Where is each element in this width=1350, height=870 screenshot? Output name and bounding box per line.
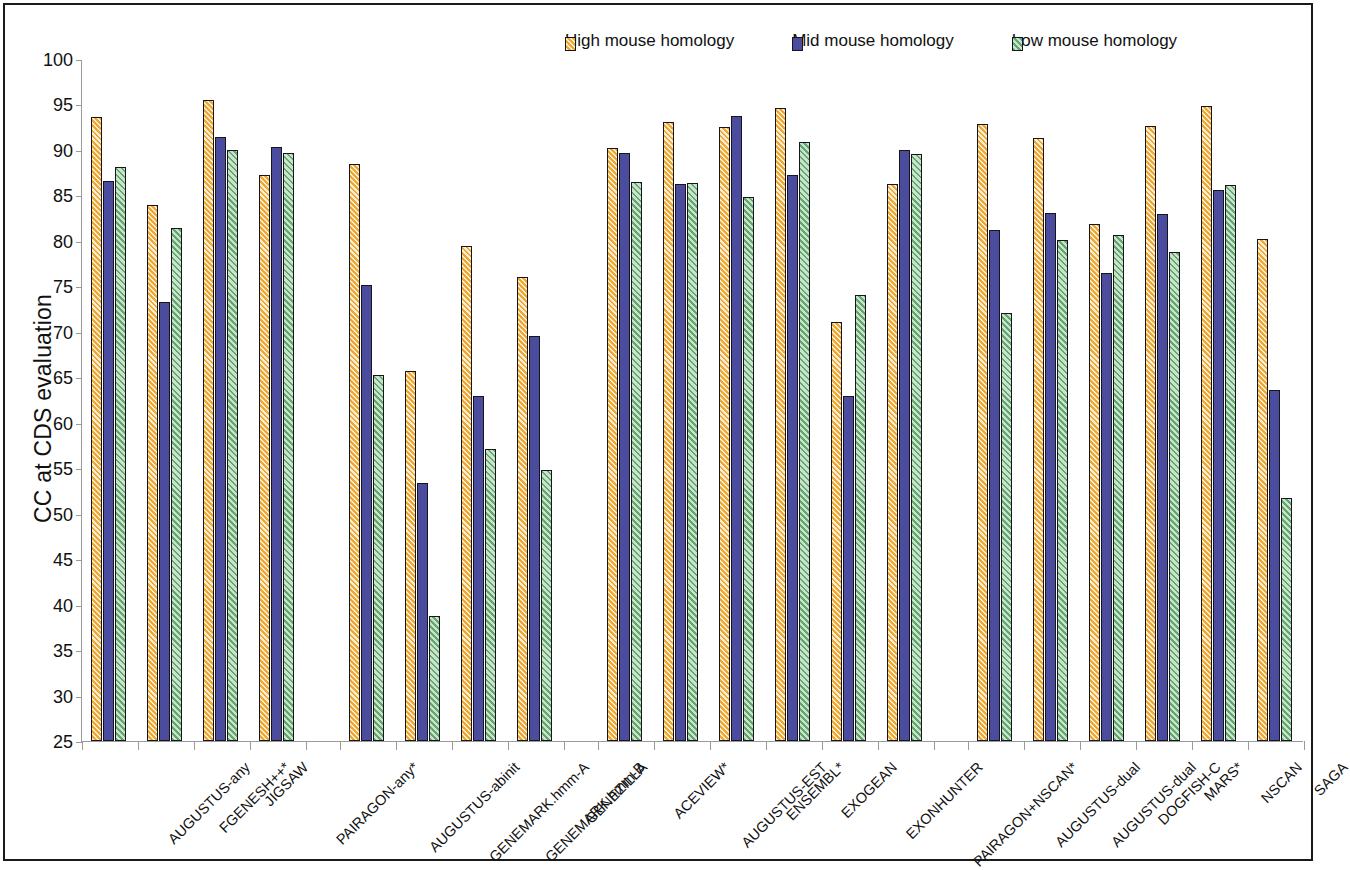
bar-low bbox=[429, 616, 440, 741]
bar-high bbox=[719, 127, 730, 741]
bar-low bbox=[227, 150, 238, 741]
bar-mid bbox=[899, 150, 910, 741]
bar-low bbox=[1225, 185, 1236, 741]
x-tick-mark bbox=[1136, 741, 1137, 750]
x-tick-mark bbox=[564, 741, 565, 750]
plot-area: 100959085807570656055504540353025 bbox=[81, 60, 1303, 742]
bar-high bbox=[1257, 239, 1268, 741]
bar-mid bbox=[215, 137, 226, 741]
bar-mid bbox=[271, 147, 282, 741]
bar-low bbox=[283, 153, 294, 741]
y-tick-label: 25 bbox=[53, 732, 73, 753]
bar-high bbox=[1089, 224, 1100, 741]
bar-high bbox=[831, 322, 842, 741]
legend-item-low: Low mouse homology bbox=[1012, 31, 1177, 51]
x-tick-mark bbox=[654, 741, 655, 750]
x-tick-mark bbox=[710, 741, 711, 750]
bar-low bbox=[1057, 240, 1068, 741]
bar-high bbox=[91, 117, 102, 741]
bar-high bbox=[977, 124, 988, 741]
x-tick-mark bbox=[250, 741, 251, 750]
x-tick-mark bbox=[1248, 741, 1249, 750]
bar-mid bbox=[103, 181, 114, 741]
legend-swatch-low-icon bbox=[1012, 37, 1023, 51]
bar-high bbox=[405, 371, 416, 741]
bar-mid bbox=[787, 175, 798, 741]
bar-high bbox=[1145, 126, 1156, 741]
y-tick-label: 55 bbox=[53, 459, 73, 480]
bar-high bbox=[203, 100, 214, 741]
x-tick-mark bbox=[340, 741, 341, 750]
x-tick-mark bbox=[396, 741, 397, 750]
bar-low bbox=[911, 154, 922, 741]
bar-low bbox=[743, 197, 754, 741]
x-axis-label: PAIRAGON+NSCAN* bbox=[970, 759, 1081, 870]
legend-label-low: Low mouse homology bbox=[1012, 31, 1177, 51]
bar-mid bbox=[361, 285, 372, 741]
bar-high bbox=[775, 108, 786, 741]
x-axis-label: EXOGEAN bbox=[838, 759, 900, 821]
x-axis-label: AUGUSTUS-EST bbox=[738, 759, 830, 851]
bar-mid bbox=[1045, 213, 1056, 741]
x-axis-label: SAGA bbox=[1310, 759, 1350, 799]
y-tick-label: 75 bbox=[53, 277, 73, 298]
y-tick-label: 45 bbox=[53, 550, 73, 571]
bar-series-layer bbox=[82, 60, 1303, 741]
x-axis-label: PAIRAGON-any* bbox=[333, 759, 422, 848]
bar-mid bbox=[731, 116, 742, 741]
x-tick-mark bbox=[766, 741, 767, 750]
y-tick-label: 40 bbox=[53, 595, 73, 616]
chart-frame: High mouse homology Mid mouse homology L… bbox=[3, 3, 1313, 861]
bar-low bbox=[1001, 313, 1012, 741]
bar-low bbox=[687, 183, 698, 741]
legend-item-high: High mouse homology bbox=[565, 31, 734, 51]
bar-mid bbox=[1157, 214, 1168, 741]
x-tick-mark bbox=[508, 741, 509, 750]
x-tick-mark bbox=[598, 741, 599, 750]
bar-mid bbox=[1213, 190, 1224, 741]
bar-high bbox=[663, 122, 674, 741]
bar-mid bbox=[529, 336, 540, 741]
bar-low bbox=[485, 449, 496, 741]
y-tick-label: 95 bbox=[53, 95, 73, 116]
bar-mid bbox=[619, 153, 630, 741]
x-tick-mark bbox=[878, 741, 879, 750]
y-tick-label: 100 bbox=[43, 50, 73, 71]
x-axis-label: ACEVIEW* bbox=[670, 759, 733, 822]
bar-low bbox=[631, 182, 642, 741]
y-tick-label: 80 bbox=[53, 231, 73, 252]
bar-high bbox=[259, 175, 270, 742]
bar-mid bbox=[989, 230, 1000, 741]
bar-mid bbox=[1269, 390, 1280, 741]
y-tick-label: 30 bbox=[53, 686, 73, 707]
x-tick-mark bbox=[934, 741, 935, 750]
bar-low bbox=[115, 167, 126, 741]
bar-high bbox=[147, 205, 158, 742]
x-axis-label: NSCAN bbox=[1257, 759, 1304, 806]
y-tick-label: 50 bbox=[53, 504, 73, 525]
bar-high bbox=[461, 246, 472, 741]
x-tick-mark bbox=[1192, 741, 1193, 750]
bar-high bbox=[1201, 106, 1212, 741]
bar-mid bbox=[473, 396, 484, 741]
bar-mid bbox=[417, 483, 428, 741]
legend-swatch-high-icon bbox=[565, 37, 576, 51]
legend-item-mid: Mid mouse homology bbox=[792, 31, 954, 51]
x-tick-mark bbox=[822, 741, 823, 750]
bar-mid bbox=[675, 184, 686, 741]
y-tick-label: 65 bbox=[53, 368, 73, 389]
bar-low bbox=[373, 375, 384, 741]
bar-low bbox=[1169, 252, 1180, 741]
bar-mid bbox=[159, 302, 170, 741]
bar-low bbox=[171, 228, 182, 741]
x-tick-mark bbox=[452, 741, 453, 750]
legend-swatch-mid-icon bbox=[792, 37, 803, 51]
x-axis-label: EXONHUNTER bbox=[902, 759, 985, 842]
bar-mid bbox=[1101, 273, 1112, 741]
x-tick-mark bbox=[306, 741, 307, 750]
x-tick-mark bbox=[1024, 741, 1025, 750]
y-tick-label: 60 bbox=[53, 413, 73, 434]
bar-low bbox=[799, 142, 810, 741]
x-tick-mark bbox=[1304, 741, 1305, 750]
bar-high bbox=[1033, 138, 1044, 741]
